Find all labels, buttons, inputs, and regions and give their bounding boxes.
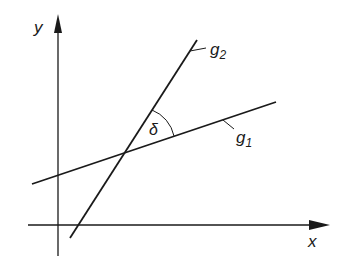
g2-label: g2 xyxy=(210,40,226,62)
g1-label: g1 xyxy=(236,128,252,150)
x-axis-arrow-icon xyxy=(309,220,330,230)
y-axis xyxy=(54,14,62,256)
y-axis-label: y xyxy=(33,18,44,37)
y-axis-arrow-icon xyxy=(54,14,62,33)
diagram-canvas: y x g2 g1 δ xyxy=(0,0,349,271)
diagram-svg: y x g2 g1 δ xyxy=(0,0,349,271)
g1-leader xyxy=(223,120,234,129)
angle-delta-label: δ xyxy=(149,121,159,138)
x-axis xyxy=(28,220,330,230)
line-g2 xyxy=(70,40,197,238)
x-axis-label: x xyxy=(307,232,317,251)
